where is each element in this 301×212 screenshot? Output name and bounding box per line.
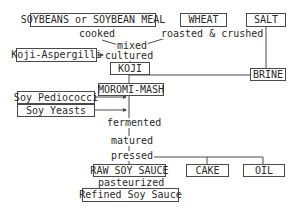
- step-cooked: cooked: [78, 29, 116, 39]
- step-matured: matured: [110, 136, 154, 146]
- node-cake: CAKE: [186, 164, 229, 177]
- step-fermented: fermented: [106, 118, 162, 128]
- soy-sauce-flow-diagram: SOYBEANS or SOYBEAN MEAL WHEAT SALT cook…: [0, 0, 301, 212]
- node-salt: SALT: [246, 13, 286, 27]
- node-koji-aspergilli: Koji-Aspergilli: [16, 48, 97, 62]
- step-cultured: cultured: [104, 51, 154, 61]
- node-brine: BRINE: [250, 68, 286, 81]
- node-wheat: WHEAT: [180, 13, 227, 27]
- arrowhead-yeasts: [123, 108, 127, 112]
- node-soy-pediococci: Soy Pediococci: [17, 91, 95, 104]
- node-moromi-mash: MOROMI-MASH: [98, 83, 164, 96]
- node-raw-soy-sauce: RAW SOY SAUCE: [93, 164, 166, 177]
- node-refined-soy-sauce: Refined Soy Sauce: [82, 188, 179, 202]
- step-pasteurized: pasteurized: [97, 178, 165, 188]
- step-roasted-crushed: roasted & crushed: [160, 29, 264, 39]
- node-soybeans: SOYBEANS or SOYBEAN MEAL: [30, 13, 156, 27]
- node-soy-yeasts: Soy Yeasts: [17, 104, 95, 117]
- node-oil: OIL: [243, 164, 285, 177]
- node-koji: KOJI: [110, 62, 150, 75]
- step-pressed: pressed: [110, 151, 154, 161]
